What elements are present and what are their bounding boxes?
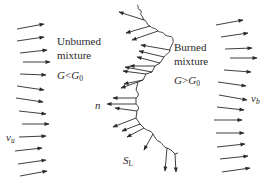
unburned-condition: G<G0 bbox=[57, 70, 83, 82]
arrow-icon bbox=[165, 148, 167, 171]
flame-front-curve bbox=[136, 5, 178, 154]
burned-condition: G>G0 bbox=[174, 75, 200, 87]
arrow-icon bbox=[216, 20, 243, 25]
arrow-icon bbox=[217, 107, 244, 110]
arrow-icon bbox=[119, 12, 144, 20]
unburned-label-line2: mixture bbox=[57, 50, 91, 61]
flame-front-diagram bbox=[0, 0, 267, 184]
arrow-icon bbox=[20, 171, 47, 176]
arrow-icon bbox=[218, 82, 246, 86]
unburned-label-line1: Unburned bbox=[57, 36, 101, 47]
arrow-icon bbox=[16, 98, 43, 102]
arrow-icon bbox=[19, 136, 46, 137]
arrow-icon bbox=[19, 111, 46, 114]
arrow-icon bbox=[17, 24, 44, 29]
arrow-icon bbox=[17, 86, 44, 90]
arrow-icon bbox=[125, 67, 152, 72]
burned-velocity-label: vb bbox=[251, 93, 260, 105]
arrow-icon bbox=[126, 26, 150, 33]
arrow-icon bbox=[17, 37, 44, 41]
laminar-flame-speed-label: SL bbox=[123, 155, 133, 167]
normal-vector-label: n bbox=[95, 100, 101, 111]
arrow-icon bbox=[15, 148, 42, 151]
burned-label-line1: Burned bbox=[174, 42, 206, 53]
unburned-velocity-label: vu bbox=[6, 132, 15, 144]
arrow-icon bbox=[18, 160, 46, 164]
arrow-icon bbox=[220, 156, 248, 159]
arrow-icon bbox=[225, 48, 252, 49]
arrow-icon bbox=[132, 31, 158, 40]
arrow-icon bbox=[224, 70, 251, 72]
arrow-icon bbox=[139, 51, 164, 57]
arrow-icon bbox=[122, 124, 140, 131]
arrow-icon bbox=[127, 128, 144, 137]
arrow-icon bbox=[20, 74, 46, 75]
arrow-icon bbox=[115, 108, 137, 111]
arrow-icon bbox=[144, 134, 153, 150]
arrow-icon bbox=[123, 71, 146, 74]
arrow-icon bbox=[141, 45, 170, 50]
arrow-icon bbox=[221, 33, 248, 37]
arrow-icon bbox=[137, 57, 160, 63]
arrow-icon bbox=[20, 50, 47, 53]
unburned-velocity-arrows bbox=[15, 24, 50, 176]
arrow-icon bbox=[219, 95, 247, 100]
arrow-icon bbox=[222, 168, 250, 172]
arrow-icon bbox=[175, 154, 176, 172]
burned-label-line2: mixture bbox=[174, 56, 208, 67]
arrow-icon bbox=[217, 144, 245, 147]
arrow-icon bbox=[113, 118, 136, 127]
